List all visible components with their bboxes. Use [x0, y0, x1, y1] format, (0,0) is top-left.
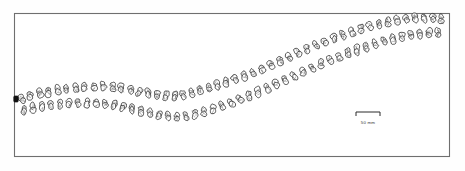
stone-outline	[435, 33, 440, 38]
stone-outline	[66, 101, 71, 107]
plan-frame	[15, 14, 450, 157]
solid-datum-marker	[14, 96, 18, 102]
stone-outline	[305, 49, 310, 54]
stone-outline	[81, 86, 87, 92]
stone-outline	[39, 104, 44, 112]
stone-outline	[163, 95, 168, 101]
stone-outline	[210, 108, 215, 114]
stone-outline	[368, 25, 374, 31]
stone-outline	[27, 94, 33, 100]
stone-outline	[297, 51, 302, 57]
stone-outline	[265, 87, 271, 93]
stone-outline	[377, 23, 382, 29]
stone-outline	[223, 80, 229, 87]
solid-datum-marker-group	[14, 96, 18, 102]
figure-root: 50 mm	[0, 0, 465, 171]
stone-outline	[93, 102, 99, 108]
plan-drawing-svg: 50 mm	[0, 0, 465, 171]
scale-bar-label: 50 mm	[361, 120, 376, 125]
stone-outline	[111, 103, 115, 110]
stone-outline	[184, 115, 189, 120]
stone-outline	[30, 107, 36, 113]
stone-outline	[84, 101, 90, 108]
